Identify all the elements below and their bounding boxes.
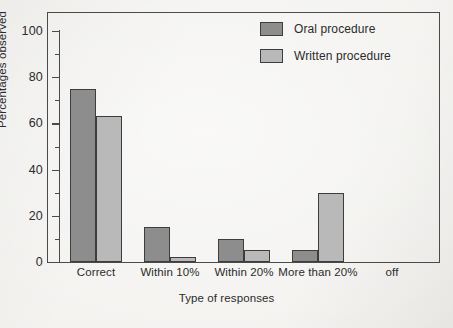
y-tick-label: 80 xyxy=(29,70,43,84)
x-tick-label: Correct xyxy=(77,266,115,278)
x-tick-label: More than 20% xyxy=(278,266,357,278)
y-tick-minor xyxy=(55,239,60,240)
bar xyxy=(170,257,196,262)
bar-group xyxy=(144,31,196,262)
y-tick-major: 0 xyxy=(52,262,59,263)
y-tick-major: 20 xyxy=(52,216,59,217)
y-tick-label: 60 xyxy=(29,116,43,130)
bar-chart-figure: Percentages observed Type of responses 0… xyxy=(0,0,453,328)
x-tick-label: Within 10% xyxy=(140,266,199,278)
x-axis-title: Type of responses xyxy=(0,292,453,304)
y-tick-major: 40 xyxy=(52,170,59,171)
legend-swatch xyxy=(260,22,283,36)
bar xyxy=(144,227,170,262)
bar xyxy=(244,250,270,262)
y-tick-major: 100 xyxy=(52,31,59,32)
y-tick-minor xyxy=(55,147,60,148)
bar xyxy=(96,116,122,262)
legend-swatch xyxy=(260,49,283,63)
legend-item: Oral procedure xyxy=(260,22,391,36)
y-axis-title: Percentages observed xyxy=(0,11,8,128)
legend-item: Written procedure xyxy=(260,49,391,63)
y-tick-major: 60 xyxy=(52,123,59,124)
legend-label: Oral procedure xyxy=(294,22,375,36)
bar xyxy=(292,250,318,262)
x-tick-label: Within 20% xyxy=(214,266,273,278)
y-tick-label: 100 xyxy=(22,24,43,38)
y-tick-label: 40 xyxy=(29,163,43,177)
bar xyxy=(318,193,344,262)
y-tick-minor xyxy=(55,54,60,55)
bar-group xyxy=(70,31,122,262)
y-tick-minor xyxy=(55,193,60,194)
y-tick-major: 80 xyxy=(52,77,59,78)
legend-label: Written procedure xyxy=(294,49,391,63)
y-tick-label: 0 xyxy=(36,255,43,269)
chart-legend: Oral procedureWritten procedure xyxy=(260,22,391,76)
y-tick-minor xyxy=(55,100,60,101)
x-tick-label: off xyxy=(386,266,399,278)
bar xyxy=(218,239,244,262)
y-tick-label: 20 xyxy=(29,209,43,223)
bar xyxy=(70,89,96,262)
